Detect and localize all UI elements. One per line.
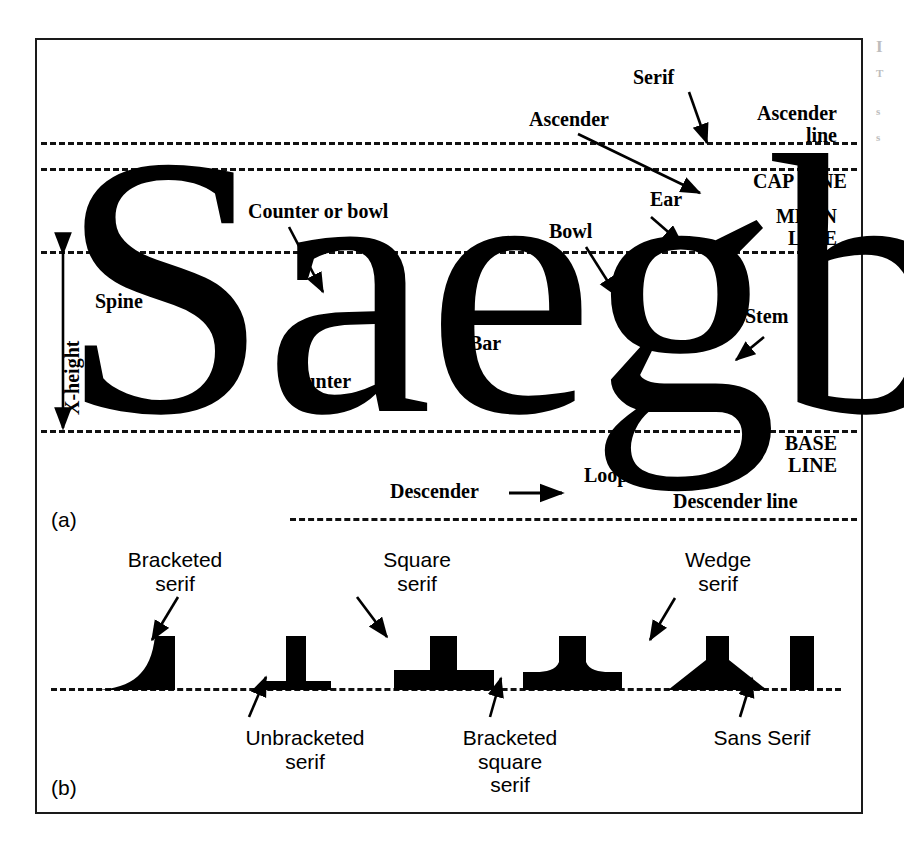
label-base-line: BASE LINE: [657, 432, 837, 477]
bracketed-square-serif-glyph: [523, 636, 622, 690]
label-descender: Descender: [390, 480, 479, 502]
label-cap-line: CAP LINE: [753, 170, 847, 192]
label-serif: Serif: [633, 66, 674, 88]
label-stem: Stem: [745, 305, 788, 327]
label-mean-line: MEAN LINE: [657, 205, 837, 250]
wedge-serif-glyph: [668, 636, 767, 690]
label-loop: Loop: [584, 464, 628, 486]
panel-b-caption: (b): [51, 776, 77, 800]
figure-frame: Saegb Ascender line CAP LINE MEAN LINE B…: [35, 38, 863, 814]
panel-a: Saegb Ascender line CAP LINE MEAN LINE B…: [37, 40, 861, 536]
label-bracketed-serif: Bracketed serif: [95, 548, 255, 595]
label-descender-line: Descender line: [673, 490, 798, 512]
square-serif-foot: [394, 670, 494, 690]
label-ascender-line: Ascender line: [655, 102, 837, 147]
panel-a-caption: (a): [51, 508, 77, 532]
label-wedge-serif: Wedge serif: [643, 548, 793, 595]
label-square-serif: Square serif: [337, 548, 497, 595]
mean-guide-line: [41, 251, 857, 254]
label-counter-or-bowl: Counter or bowl: [248, 200, 388, 222]
label-sans-serif: Sans Serif: [677, 726, 847, 750]
unbracketed-serif-foot: [261, 681, 331, 690]
margin-note: I T s s: [876, 34, 902, 150]
margin-note-line-3: s: [876, 98, 902, 124]
cap-guide-line: [41, 168, 857, 171]
margin-note-line-4: s: [876, 124, 902, 150]
panel-b: Bracketed serif Unbracketed serif Square…: [37, 536, 861, 816]
descender-guide-line: [290, 518, 857, 521]
label-x-height: X-height: [61, 341, 84, 415]
margin-note-line-1: I: [876, 34, 902, 60]
label-bowl: Bowl: [549, 220, 592, 242]
label-spine: Spine: [95, 290, 143, 312]
label-ear: Ear: [650, 188, 682, 210]
sans-serif-glyph: [790, 636, 814, 690]
label-ascender: Ascender: [529, 108, 609, 130]
label-counter: Counter: [280, 370, 351, 392]
label-bracketed-square-serif: Bracketed square serif: [425, 726, 595, 797]
label-unbracketed-serif: Unbracketed serif: [205, 726, 405, 773]
label-bar: Bar: [469, 332, 501, 354]
bracketed-serif-glyph: [97, 636, 175, 690]
margin-note-line-2: T: [876, 60, 902, 86]
